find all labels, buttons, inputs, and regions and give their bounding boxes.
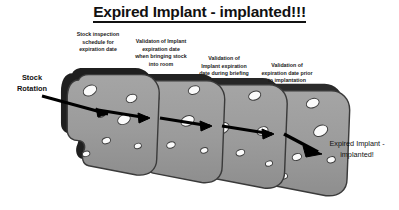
barrier-label-4-line-1: Validation of [248, 62, 326, 70]
barrier-label-2-line-1: Validaton of Implant [121, 38, 201, 46]
barrier-label-4-line-3: to implantation [248, 77, 326, 85]
barrier-label-4: Validation of expiration date prior to i… [248, 62, 326, 85]
outcome-label-line-1: Expired Implant - [316, 139, 398, 150]
input-label-line-1: Stock [6, 73, 58, 84]
input-label-line-2: Rotation [6, 84, 58, 95]
outcome-label-line-2: implanted! [316, 150, 398, 161]
input-label-stock-rotation: Stock Rotation [6, 73, 58, 94]
barrier-label-2-line-2: expiration date [121, 46, 201, 54]
barrier-label-4-line-2: expiration date prior [248, 70, 326, 78]
diagram-canvas: Expired Implant - implanted!!! [0, 0, 399, 210]
cheese-slice-1 [61, 68, 159, 175]
outcome-label: Expired Implant - implanted! [316, 139, 398, 161]
